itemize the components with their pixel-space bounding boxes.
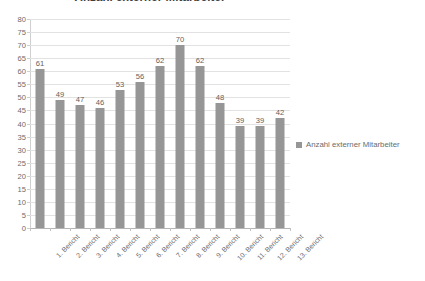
bar-group[interactable]: 47: [70, 19, 90, 228]
x-tick-mark: [170, 228, 171, 231]
y-tick-label: 80: [18, 15, 26, 24]
bar-value-label: 47: [76, 95, 84, 104]
x-tick-mark: [70, 228, 71, 231]
bar-group[interactable]: 39: [250, 19, 270, 228]
bar[interactable]: [256, 126, 265, 228]
x-tick-mark: [270, 228, 271, 231]
bar-group[interactable]: 62: [150, 19, 170, 228]
y-tick-label: 65: [18, 54, 26, 63]
x-axis-line: [30, 228, 290, 229]
bar-value-label: 53: [116, 80, 124, 89]
y-tick-label: 10: [18, 197, 26, 206]
y-tick-label: 50: [18, 93, 26, 102]
bar[interactable]: [76, 105, 85, 228]
bar-group[interactable]: 56: [130, 19, 150, 228]
y-tick-label: 55: [18, 80, 26, 89]
bar[interactable]: [216, 103, 225, 228]
bar[interactable]: [116, 90, 125, 228]
y-tick-label: 75: [18, 28, 26, 37]
bar-value-label: 61: [36, 59, 44, 68]
bar-group[interactable]: 70: [170, 19, 190, 228]
bar-group[interactable]: 61: [30, 19, 50, 228]
bar-value-label: 62: [196, 56, 204, 65]
bar-value-label: 46: [96, 98, 104, 107]
x-tick-mark: [30, 228, 31, 231]
bar[interactable]: [36, 69, 45, 228]
bar-group[interactable]: 48: [210, 19, 230, 228]
y-tick-label: 15: [18, 184, 26, 193]
y-tick-label: 30: [18, 145, 26, 154]
chart-title: Anzahl externer Mitarbeiter: [0, 0, 300, 3]
bar-group[interactable]: 39: [230, 19, 250, 228]
bars: 61494746535662706248393942: [30, 19, 290, 228]
x-tick-mark: [190, 228, 191, 231]
y-tick-label: 70: [18, 41, 26, 50]
x-tick-mark: [250, 228, 251, 231]
bar-value-label: 70: [176, 35, 184, 44]
bar-value-label: 49: [56, 90, 64, 99]
bar-value-label: 42: [276, 108, 284, 117]
bar[interactable]: [136, 82, 145, 228]
plot-area: 80757065605550454035302520151050 6149474…: [30, 19, 290, 228]
y-tick-label: 20: [18, 171, 26, 180]
bar-value-label: 48: [216, 93, 224, 102]
x-tick-mark: [210, 228, 211, 231]
bar-value-label: 56: [136, 72, 144, 81]
bar-value-label: 39: [256, 116, 264, 125]
bar-group[interactable]: 53: [110, 19, 130, 228]
x-tick-mark: [50, 228, 51, 231]
bar[interactable]: [56, 100, 65, 228]
bar[interactable]: [156, 66, 165, 228]
legend: Anzahl externer Mitarbeiter: [296, 140, 400, 149]
x-tick-mark: [150, 228, 151, 231]
bar-chart: Anzahl externer Mitarbeiter 807570656055…: [0, 0, 425, 281]
bar-group[interactable]: 42: [270, 19, 290, 228]
y-tick-label: 25: [18, 158, 26, 167]
y-tick-label: 5: [22, 210, 26, 219]
x-tick-mark: [90, 228, 91, 231]
bar-value-label: 39: [236, 116, 244, 125]
bar[interactable]: [96, 108, 105, 228]
legend-label: Anzahl externer Mitarbeiter: [306, 140, 400, 149]
y-tick-label: 40: [18, 119, 26, 128]
bar[interactable]: [236, 126, 245, 228]
x-tick-mark: [110, 228, 111, 231]
bar-group[interactable]: 62: [190, 19, 210, 228]
bar-group[interactable]: 49: [50, 19, 70, 228]
y-tick-label: 0: [22, 224, 26, 233]
bar[interactable]: [176, 45, 185, 228]
bar[interactable]: [196, 66, 205, 228]
y-tick-label: 45: [18, 106, 26, 115]
bar-value-label: 62: [156, 56, 164, 65]
y-tick-label: 60: [18, 67, 26, 76]
bar[interactable]: [276, 118, 285, 228]
bar-group[interactable]: 46: [90, 19, 110, 228]
legend-swatch-icon: [296, 142, 302, 148]
y-tick-label: 35: [18, 132, 26, 141]
x-tick-mark: [130, 228, 131, 231]
x-tick-mark: [290, 228, 291, 231]
x-tick-mark: [230, 228, 231, 231]
